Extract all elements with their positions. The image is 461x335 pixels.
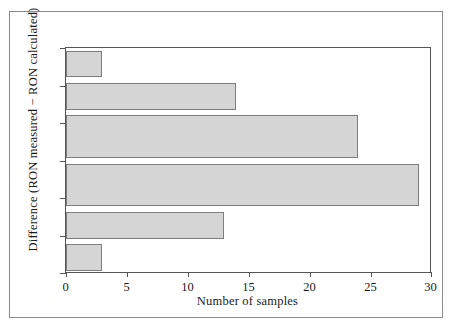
x-tick-mark [310,272,311,278]
bar [66,115,359,158]
y-tick-mark [60,48,66,49]
bar [66,51,103,78]
x-tick-mark [188,272,189,278]
y-axis-title: Difference (RON measured − RON calculate… [26,5,41,255]
x-tick-label: 15 [229,280,269,295]
bar [66,244,103,271]
x-tick-label: 20 [290,280,330,295]
x-tick-label: 25 [351,280,391,295]
x-tick-mark [431,272,432,278]
x-tick-label: 10 [168,280,208,295]
x-tick-label: 30 [411,280,451,295]
y-tick-mark [60,161,66,162]
bar [66,83,237,110]
x-axis-title: Number of samples [65,294,431,309]
plot-area: 0.7 0.5 0.3 0 − 0.3 − 0.5 − 0.7 0 5 10 1… [65,47,431,273]
x-tick-mark [371,272,372,278]
x-tick-label: 0 [46,280,86,295]
x-tick-mark [127,272,128,278]
x-tick-mark [66,272,67,278]
x-tick-label: 5 [107,280,147,295]
figure: Difference (RON measured − RON calculate… [0,0,461,335]
x-tick-mark [249,272,250,278]
bar [66,164,420,207]
bar [66,212,225,239]
